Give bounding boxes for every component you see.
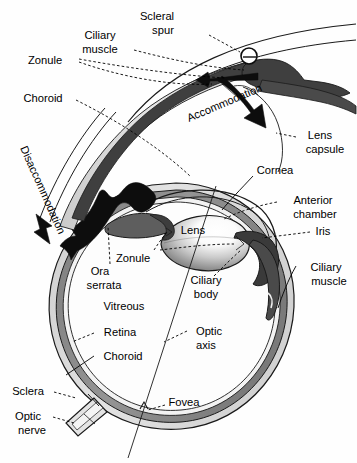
label-ciliary-body-line2: body [194,288,219,300]
label-lens-capsule-line1: Lens [308,129,333,141]
label-scleral-spur-line2: spur [152,24,174,36]
label-scleral-spur-line1: Scleral [140,10,174,22]
label-sclera: Sclera [12,385,44,397]
label-vitreous: Vitreous [104,300,145,312]
label-ciliary-muscle-top-line1: Ciliary [84,29,115,41]
label-ora-serrata-line1: Ora [91,265,110,277]
label-optic-axis-line1: Optic [196,325,223,337]
label-ciliary-muscle-right-line1: Ciliary [310,261,341,273]
label-lens: Lens [181,224,206,236]
label-zonule-mid: Zonule [116,252,150,264]
label-zonule-top: Zonule [28,54,62,66]
label-iris: Iris [316,225,331,237]
label-optic-nerve-line1: Optic [15,410,42,422]
lens-capsule-curve [243,87,283,172]
label-cornea: Cornea [257,164,294,176]
label-choroid-top: Choroid [23,92,62,104]
eye-accommodation-figure: Scleral spur Ciliary muscle Zonule Choro… [0,0,357,463]
label-anterior-chamber-line2: chamber [293,208,337,220]
eye-diagram-svg: Scleral spur Ciliary muscle Zonule Choro… [0,0,357,463]
label-optic-axis-line2: axis [196,339,216,351]
label-ciliary-body-line1: Ciliary [190,274,221,286]
label-ora-serrata-line2: serrata [87,279,123,291]
label-retina: Retina [104,326,137,338]
label-anterior-chamber-line1: Anterior [293,194,332,206]
label-choroid-lower: Choroid [103,350,142,362]
label-lens-capsule-line2: capsule [306,143,345,155]
label-ciliary-muscle-top-line2: muscle [82,43,117,55]
label-optic-nerve-line2: nerve [18,424,46,436]
label-ciliary-muscle-right-line2: muscle [311,275,346,287]
scleral-spur-marker [241,48,257,64]
label-fovea: Fovea [168,396,200,408]
